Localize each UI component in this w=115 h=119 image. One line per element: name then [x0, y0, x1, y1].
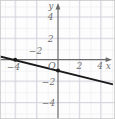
origin-label: O	[48, 60, 56, 71]
x-tick-label-neg2: −2	[29, 46, 43, 56]
y-tick-label-neg2: −2	[42, 77, 56, 87]
y-tick-label-pos4: 4	[47, 12, 54, 22]
x-axis-label: x	[106, 61, 111, 71]
graph-figure: y x O −4 −2 2 4 4 2 −2 −4	[0, 0, 115, 119]
x-tick-label-pos4: 4	[96, 61, 103, 71]
y-axis-label: y	[48, 1, 54, 11]
x-tick-label-neg4: −4	[7, 62, 21, 72]
y-tick-label-pos2: 2	[47, 34, 54, 44]
y-tick-label-neg4: −4	[42, 98, 56, 108]
marked-point-y-intercept	[56, 68, 60, 72]
x-tick-label-pos2: 2	[76, 61, 83, 71]
coordinate-plane-svg: y x O −4 −2 2 4 4 2 −2 −4	[0, 0, 115, 119]
